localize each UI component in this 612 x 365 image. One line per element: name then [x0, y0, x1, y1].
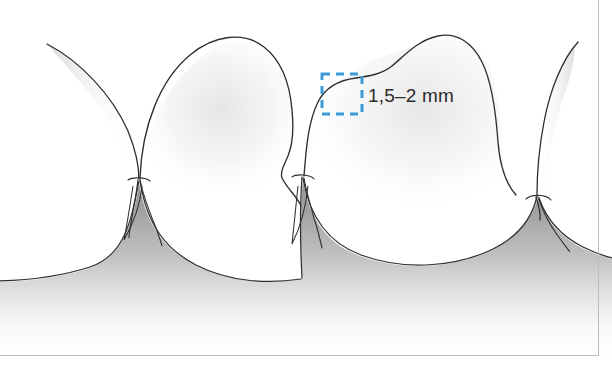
measurement-label: 1,5–2 mm: [368, 85, 454, 107]
tooth-centerright-enamel-shade: [310, 38, 514, 210]
dental-illustration-figure: 1,5–2 mm: [0, 0, 612, 365]
tooth-centerleft-enamel-shade: [142, 42, 294, 193]
tooth-center-left-incisor: [140, 37, 301, 246]
illustration-canvas: [0, 0, 612, 365]
tooth-left-incisor: [47, 44, 139, 238]
tooth-center-right-incisor: [304, 35, 516, 248]
gingiva-fill: [0, 180, 612, 365]
tooth-left-enamel-shade: [48, 45, 138, 179]
tooth-right-enamel-shade: [537, 44, 575, 194]
tooth-left-outline: [47, 44, 139, 179]
gingiva-mass: [0, 180, 612, 365]
